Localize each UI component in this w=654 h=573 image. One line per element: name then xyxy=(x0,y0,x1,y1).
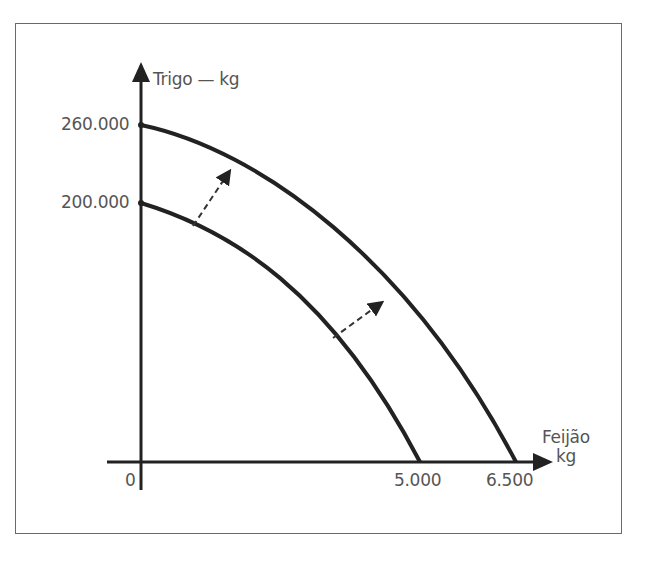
origin-label: 0 xyxy=(125,470,136,490)
curve-initial xyxy=(141,203,420,462)
curve-expanded xyxy=(141,125,516,462)
shift-arrow-1 xyxy=(193,172,229,226)
x-axis-label-line1: Feijão xyxy=(542,427,590,447)
x-axis xyxy=(107,453,553,471)
ppf-chart xyxy=(0,0,654,573)
y-tick-label-200000: 200.000 xyxy=(61,192,129,212)
y-axis-label: Trigo — kg xyxy=(153,69,239,89)
x-tick-label-6500: 6.500 xyxy=(486,470,533,490)
x-tick-label-5000: 5.000 xyxy=(394,470,441,490)
shift-arrow-2 xyxy=(333,303,381,338)
x-axis-label-line2: kg xyxy=(556,446,576,466)
y-tick-label-260000: 260.000 xyxy=(61,114,129,134)
